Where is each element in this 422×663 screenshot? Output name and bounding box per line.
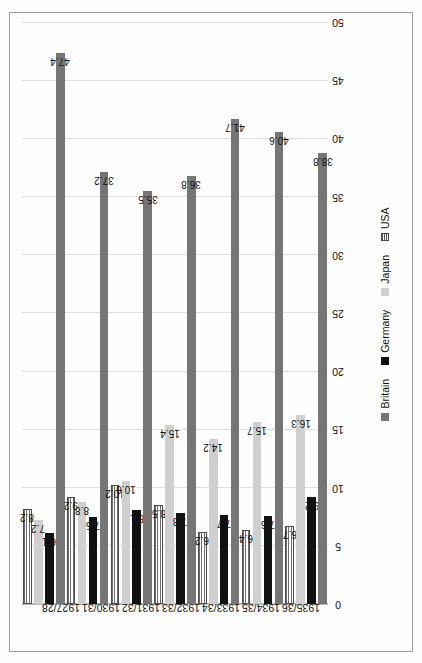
bar-usa[interactable] [111, 485, 120, 604]
bar-row: 7.7 [220, 23, 229, 604]
value-axis-tick: 40 [332, 133, 344, 145]
bar-japan[interactable] [165, 425, 174, 604]
bar-britain[interactable] [275, 132, 284, 604]
bar-group: 8.27.26.147.4 [22, 23, 66, 604]
bar-value-label: 6.1 [42, 535, 56, 546]
bar-row: 9.2 [67, 23, 76, 604]
bar-group: 6.415.77.640.6 [241, 23, 285, 604]
legend-swatch-britain-icon [381, 412, 389, 420]
bar-value-label: 8.5 [152, 507, 166, 518]
category-axis-tick: 1931/32 [122, 602, 160, 614]
bar-row: 37.2 [100, 23, 109, 604]
category-axis: 1927/281930/311931/321932/331933/341934/… [22, 604, 302, 650]
bar-japan[interactable] [122, 480, 131, 603]
bar-row: 36.8 [187, 23, 196, 604]
bar-group: 6.214.27.741.7 [197, 23, 241, 604]
value-axis-tick: 25 [332, 308, 344, 320]
bar-row: 9.2 [307, 23, 316, 604]
bar-group: 9.28.87.537.2 [66, 23, 110, 604]
bar-row: 8.5 [154, 23, 163, 604]
bar-row: 7.6 [264, 23, 273, 604]
legend-label: USA [379, 207, 391, 229]
bar-row: 16.3 [296, 23, 305, 604]
bar-value-label: 7.8 [173, 515, 187, 526]
bar-germany[interactable] [307, 497, 316, 604]
bar-row: 41.7 [231, 23, 240, 604]
value-axis-tick: 45 [332, 75, 344, 87]
bar-japan[interactable] [296, 414, 305, 603]
category-axis-tick: 1935/36 [282, 602, 320, 614]
bar-row: 6.1 [45, 23, 54, 604]
bar-britain[interactable] [100, 171, 109, 603]
bar-group: 10.210.68.135.5 [109, 23, 153, 604]
category-axis-tick: 1927/28 [42, 602, 80, 614]
bar-row: 10.2 [111, 23, 120, 604]
value-axis-tick: 30 [332, 249, 344, 261]
bar-groups: 8.27.26.147.49.28.87.537.210.210.68.135.… [22, 23, 328, 604]
legend-item-usa[interactable]: USA [379, 207, 391, 241]
legend-label: Britain [379, 378, 391, 408]
value-axis-tick: 50 [332, 17, 344, 29]
bar-value-label: 6.2 [195, 534, 209, 545]
value-axis-tick: 20 [332, 366, 344, 378]
bar-britain[interactable] [56, 53, 65, 604]
bar-value-label: 7.6 [261, 518, 275, 529]
chart-figure: 8.27.26.147.49.28.87.537.210.210.68.135.… [9, 12, 413, 652]
bar-row: 7.2 [34, 23, 43, 604]
plot-area: 8.27.26.147.49.28.87.537.210.210.68.135.… [22, 23, 328, 605]
legend-item-britain[interactable]: Britain [379, 378, 391, 420]
bar-row: 10.6 [122, 23, 131, 604]
bar-value-label: 7.5 [86, 519, 100, 530]
legend-item-germany[interactable]: Germany [379, 309, 391, 364]
bar-value-label: 6.4 [239, 532, 253, 543]
category-axis-tick: 1930/31 [82, 602, 120, 614]
legend-label: Germany [379, 309, 391, 352]
legend-item-japan[interactable]: Japan [379, 255, 391, 296]
bar-britain[interactable] [231, 119, 240, 604]
bar-value-label: 8.2 [21, 511, 35, 522]
bar-group: 8.515.47.836.8 [153, 23, 197, 604]
bar-row: 6.2 [198, 23, 207, 604]
legend-swatch-japan-icon [381, 287, 389, 295]
bar-row: 14.2 [209, 23, 218, 604]
chart-legend: BritainGermanyJapanUSA [374, 23, 396, 605]
bar-value-label: 7.2 [31, 522, 45, 533]
bar-row: 6.7 [285, 23, 294, 604]
bar-germany[interactable] [132, 509, 141, 603]
bar-row: 40.6 [275, 23, 284, 604]
legend-swatch-usa-icon [381, 233, 389, 241]
bar-row: 47.4 [56, 23, 65, 604]
bar-row: 7.5 [89, 23, 98, 604]
scanned-page: 8.27.26.147.49.28.87.537.210.210.68.135.… [0, 0, 422, 663]
bar-row: 38.8 [318, 23, 327, 604]
bar-row: 7.8 [176, 23, 185, 604]
bar-value-label: 6.7 [283, 528, 297, 539]
chart-area: 8.27.26.147.49.28.87.537.210.210.68.135.… [22, 23, 354, 605]
bar-row: 8.1 [132, 23, 141, 604]
value-axis-tick: 35 [332, 191, 344, 203]
category-axis-tick: 1933/34 [202, 602, 240, 614]
category-axis-tick: 1932/33 [162, 602, 200, 614]
legend-label: Japan [379, 255, 391, 284]
bar-row: 35.5 [143, 23, 152, 604]
bar-japan[interactable] [253, 421, 262, 603]
bar-japan[interactable] [78, 501, 87, 603]
bar-row: 15.7 [253, 23, 262, 604]
bar-value-label: 8.8 [75, 504, 89, 515]
rotated-figure-wrapper: 8.27.26.147.49.28.87.537.210.210.68.135.… [0, 0, 422, 663]
bar-row: 8.2 [23, 23, 32, 604]
value-axis-tick: 0 [335, 599, 341, 611]
bar-group: 6.716.39.238.8 [284, 23, 328, 604]
bar-row: 6.4 [242, 23, 251, 604]
value-axis-tick: 15 [332, 424, 344, 436]
category-axis-tick: 1934/35 [242, 602, 280, 614]
bar-row: 8.8 [78, 23, 87, 604]
bar-britain[interactable] [318, 153, 327, 604]
bar-value-label: 8.1 [130, 512, 144, 523]
bar-britain[interactable] [143, 191, 152, 604]
value-axis-tick: 5 [335, 540, 341, 552]
value-axis-tick: 10 [332, 482, 344, 494]
bar-usa[interactable] [154, 505, 163, 604]
bar-value-label: 9.2 [305, 499, 319, 510]
value-axis: 05101520253035404550 [328, 23, 354, 605]
